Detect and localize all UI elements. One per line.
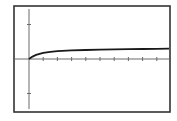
graph-screen (0, 0, 177, 121)
